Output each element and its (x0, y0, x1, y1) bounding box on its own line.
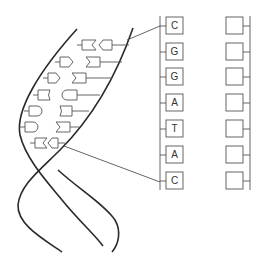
sequence-box-6: A (160, 146, 183, 163)
sequence-box-2: G (160, 43, 183, 60)
blank-box-1 (226, 17, 250, 34)
nucleotide-notch-icon (72, 73, 86, 83)
nucleotide-notch-icon (86, 57, 100, 67)
blank-box-6 (226, 146, 250, 163)
svg-text:G: G (171, 71, 179, 82)
svg-text:T: T (171, 123, 177, 134)
svg-text:C: C (171, 175, 178, 186)
nucleotide-notch-icon (56, 122, 70, 132)
nucleotide-notch-icon (35, 138, 47, 148)
sequence-column: C G G A T A C (160, 17, 183, 189)
blank-column (226, 17, 250, 189)
pointer-line-bottom (64, 146, 160, 182)
blank-box-2 (226, 43, 250, 60)
svg-text:A: A (171, 97, 178, 108)
nucleotide-pentagon-icon (48, 73, 60, 83)
nucleotide-round-icon (62, 90, 77, 100)
sequence-box-7: C (160, 172, 183, 189)
svg-text:G: G (171, 46, 179, 57)
blank-box-7 (226, 172, 250, 189)
nucleotide-round-icon (29, 106, 42, 116)
nucleotide-cup-icon (60, 106, 72, 116)
sequence-box-5: T (160, 120, 183, 137)
base-pairs (20, 40, 129, 148)
nucleotide-cup-icon (38, 90, 50, 100)
helix-lower-right-strand (58, 170, 119, 252)
sequence-box-1: C (160, 17, 183, 34)
svg-text:C: C (171, 20, 178, 31)
nucleotide-pentagon-icon (99, 40, 112, 50)
sequence-box-3: G (160, 68, 183, 85)
blank-box-4 (226, 94, 250, 111)
nucleotide-pentagon-icon (60, 57, 73, 67)
dna-diagram: C G G A T A C (0, 0, 262, 266)
svg-text:A: A (171, 149, 178, 160)
nucleotide-round-icon (25, 122, 38, 132)
nucleotide-pentagon-icon (48, 138, 58, 148)
blank-box-3 (226, 68, 250, 85)
nucleotide-notch-icon (82, 40, 96, 50)
blank-box-5 (226, 120, 250, 137)
sequence-box-4: A (160, 94, 183, 111)
